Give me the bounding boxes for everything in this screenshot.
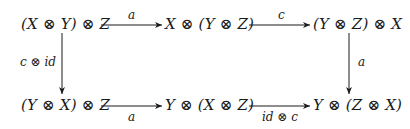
label-bot-mid-to-bot-right: id ⊗ c (262, 110, 298, 124)
label-top-mid-to-top-right: c (278, 8, 285, 22)
node-bot-left: (Y ⊗ X) ⊗ Z (21, 96, 110, 114)
node-bot-right: Y ⊗ (Z ⊗ X) (313, 96, 402, 114)
node-top-mid: X ⊗ (Y ⊗ Z) (165, 15, 254, 33)
label-top-right-to-bot-right: a (358, 55, 365, 69)
node-top-right: (Y ⊗ Z) ⊗ X (313, 15, 402, 33)
label-top-left-to-bot-left: c ⊗ id (20, 55, 56, 69)
node-bot-mid: Y ⊗ (X ⊗ Z) (165, 96, 254, 114)
node-top-left: (X ⊗ Y) ⊗ Z (21, 15, 110, 33)
label-top-left-to-top-mid: a (128, 8, 135, 22)
label-bot-left-to-bot-mid: a (128, 110, 135, 124)
